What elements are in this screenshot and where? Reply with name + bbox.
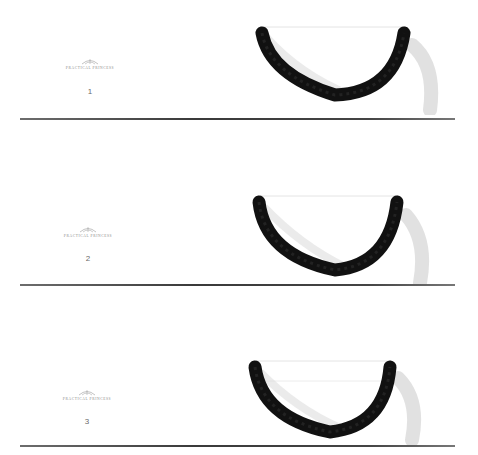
panel-number: 1 (80, 87, 100, 96)
brand-logo: PRACTICAL PRINCESS (45, 58, 135, 70)
panel-3: PRACTICAL PRINCESS 3 (0, 286, 478, 455)
panel-2: PRACTICAL PRINCESS 2 (0, 121, 478, 286)
crown-arch-icon (77, 389, 97, 396)
rope-handle (240, 185, 440, 285)
crown-arch-icon (78, 226, 98, 233)
divider-rule (20, 445, 455, 447)
panel-number: 3 (77, 417, 97, 426)
brand-logo: PRACTICAL PRINCESS (43, 226, 133, 238)
brand-name: PRACTICAL PRINCESS (43, 234, 133, 238)
crown-arch-icon (80, 58, 100, 65)
panel-number: 2 (78, 254, 98, 263)
brand-name: PRACTICAL PRINCESS (42, 397, 132, 401)
panel-1: PRACTICAL PRINCESS 1 (0, 0, 478, 121)
divider-rule (20, 118, 455, 120)
rope-handle (240, 350, 440, 445)
rope-handle (240, 15, 440, 115)
brand-logo: PRACTICAL PRINCESS (42, 389, 132, 401)
brand-name: PRACTICAL PRINCESS (45, 66, 135, 70)
